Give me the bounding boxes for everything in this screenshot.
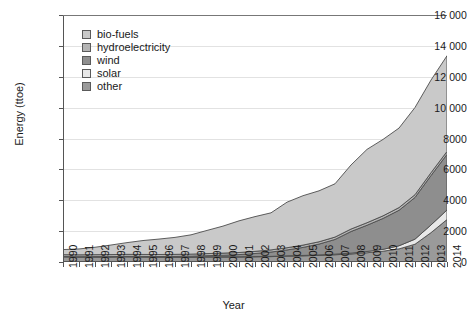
x-tick-mark [63,262,64,267]
x-tick-mark [207,262,208,267]
x-tick-label: 2008 [355,245,367,268]
legend-item-label: hydroelectricity [97,41,170,53]
y-tick-label: 6000 [411,163,467,175]
x-tick-label: 2012 [419,245,431,268]
legend-item-other: other [82,80,170,93]
x-tick-mark [399,262,400,267]
x-tick-label: 2005 [307,245,319,268]
x-tick-mark [239,262,240,267]
y-tick-label: 16 000 [411,9,467,21]
legend-item-label: other [97,80,122,92]
x-tick-mark [127,262,128,267]
x-tick-label: 1992 [99,245,111,268]
x-tick-label: 2003 [275,245,287,268]
x-tick-mark [287,262,288,267]
legend-swatch-icon [82,56,91,65]
legend-swatch-icon [82,30,91,39]
x-tick-mark [335,262,336,267]
x-tick-label: 2009 [371,245,383,268]
x-tick-label: 2010 [387,245,399,268]
y-tick-label: 14 000 [411,40,467,52]
x-tick-mark [191,262,192,267]
legend-item-solar: solar [82,67,170,80]
y-tick-label: 10 000 [411,102,467,114]
y-tick-label: 12 000 [411,71,467,83]
x-tick-label: 1993 [115,245,127,268]
legend-item-label: bio-fuels [97,28,139,40]
x-tick-mark [415,262,416,267]
x-tick-mark [255,262,256,267]
x-tick-label: 2011 [403,245,415,268]
y-tick-mark [59,139,63,140]
x-tick-mark [431,262,432,267]
x-tick-label: 1994 [131,245,143,268]
y-tick-mark [59,46,63,47]
y-tick-mark [59,108,63,109]
x-tick-label: 1990 [67,245,79,268]
legend-swatch-icon [82,69,91,78]
x-tick-label: 2007 [339,245,351,268]
plot-top-rule [63,15,447,16]
x-tick-mark [111,262,112,267]
legend-swatch-icon [82,43,91,52]
x-tick-label: 2014 [451,245,463,268]
x-tick-label: 2002 [259,245,271,268]
x-tick-mark [143,262,144,267]
y-tick-mark [59,15,63,16]
legend-item-label: wind [97,54,120,66]
x-tick-label: 2004 [291,245,303,268]
x-tick-mark [159,262,160,267]
x-tick-label: 1999 [211,245,223,268]
x-tick-mark [271,262,272,267]
x-tick-label: 1991 [83,245,95,268]
chart-legend: bio-fuelshydroelectricitywindsolarother [82,28,170,93]
x-tick-label: 1995 [147,245,159,268]
y-axis-title: Energy (ttoe) [13,69,25,159]
x-tick-mark [223,262,224,267]
energy-stacked-area-chart: 0200040006000800010 00012 00014 00016 00… [0,0,467,316]
y-tick-mark [59,200,63,201]
x-tick-mark [367,262,368,267]
x-tick-label: 2001 [243,245,255,268]
y-tick-label: 4000 [411,194,467,206]
legend-item-bio-fuels: bio-fuels [82,28,170,41]
x-tick-mark [95,262,96,267]
y-tick-mark [59,231,63,232]
x-tick-mark [351,262,352,267]
x-axis-title: Year [0,299,467,311]
legend-item-wind: wind [82,54,170,67]
x-tick-label: 2006 [323,245,335,268]
x-tick-label: 1997 [179,245,191,268]
x-tick-mark [447,262,448,267]
y-tick-label: 2000 [411,225,467,237]
y-tick-mark [59,77,63,78]
x-tick-mark [303,262,304,267]
y-tick-mark [59,169,63,170]
x-tick-mark [79,262,80,267]
x-tick-mark [383,262,384,267]
legend-swatch-icon [82,82,91,91]
x-tick-mark [319,262,320,267]
x-tick-label: 1996 [163,245,175,268]
x-tick-label: 2000 [227,245,239,268]
x-tick-label: 2013 [435,245,447,268]
legend-item-hydroelectricity: hydroelectricity [82,41,170,54]
y-tick-label: 8000 [411,133,467,145]
legend-item-label: solar [97,67,121,79]
x-tick-mark [175,262,176,267]
x-tick-label: 1998 [195,245,207,268]
